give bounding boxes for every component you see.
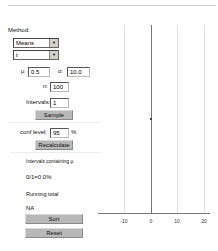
gridline — [204, 25, 205, 213]
sigma-label: σ: — [58, 68, 63, 74]
x-tick-label: 0 — [150, 218, 153, 224]
x-axis — [98, 213, 210, 214]
intervals-label: Intervals: — [26, 99, 50, 105]
x-tick-label: 20 — [201, 218, 207, 224]
chevron-down-icon: ▼ — [49, 51, 58, 59]
running-total-label: Running total — [26, 191, 58, 197]
recalculate-button[interactable]: Recalculate — [35, 140, 73, 150]
distribution-select-value: t — [16, 52, 18, 58]
x-tick-label: -10 — [120, 218, 127, 224]
intervals-containing-label: Intervals containing μ — [26, 158, 73, 164]
top-divider — [8, 5, 216, 6]
distribution-select[interactable]: t ▼ — [13, 50, 59, 60]
divider — [10, 122, 100, 123]
method-label: Method: — [8, 27, 30, 33]
method-select[interactable]: Means ▼ — [13, 38, 59, 48]
percent-label: % — [71, 129, 76, 135]
interval-point — [150, 118, 152, 120]
n-input[interactable]: 100 — [50, 82, 69, 92]
gridline — [177, 25, 178, 213]
intervals-input[interactable]: 1 — [50, 98, 69, 108]
gridline — [124, 25, 125, 213]
conf-level-label: conf level: — [20, 129, 47, 135]
chevron-down-icon: ▼ — [49, 39, 58, 47]
sort-button[interactable]: Sort — [25, 214, 83, 224]
divider — [10, 152, 100, 153]
x-tick-label: 10 — [174, 218, 180, 224]
conf-level-input[interactable]: 95 — [50, 128, 69, 138]
intervals-containing-value: 0/1=0.0% — [26, 174, 52, 180]
running-total-value: NA — [26, 205, 34, 211]
method-select-value: Means — [16, 40, 34, 46]
reset-button[interactable]: Reset — [25, 228, 83, 238]
mu-label: μ — [21, 68, 24, 74]
sigma-input[interactable]: 10.0 — [67, 67, 90, 77]
n-label: n: — [43, 83, 48, 89]
mu-input[interactable]: 0.5 — [28, 67, 50, 77]
sample-button[interactable]: Sample — [35, 110, 73, 120]
